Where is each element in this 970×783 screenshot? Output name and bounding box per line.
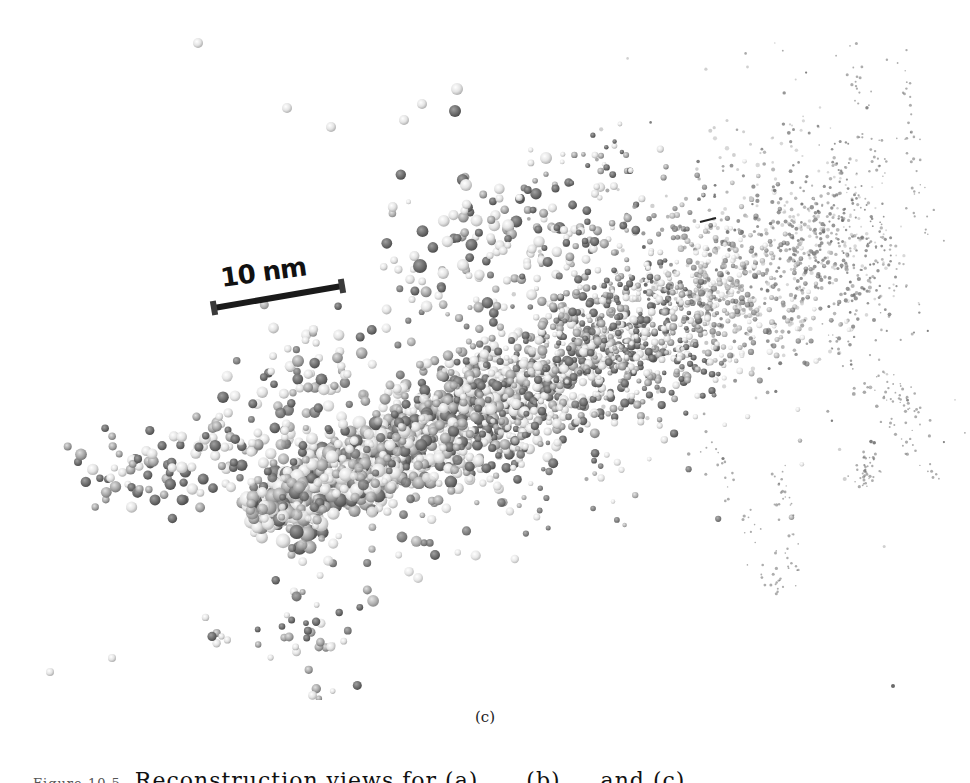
particle (727, 272, 730, 275)
particle (505, 425, 511, 431)
particle (832, 224, 836, 228)
particle (782, 471, 784, 473)
particle (914, 449, 917, 452)
particle (756, 183, 759, 186)
particle (808, 265, 810, 267)
particle (707, 363, 710, 366)
particle (684, 197, 688, 201)
particle (435, 292, 443, 300)
particle (523, 411, 529, 417)
particle (850, 360, 852, 362)
particle (789, 497, 791, 499)
particle (871, 138, 873, 140)
particle (719, 317, 723, 321)
particle (585, 269, 591, 275)
particle (773, 239, 776, 242)
particle (849, 214, 851, 216)
particle (526, 289, 537, 300)
particle (745, 271, 748, 274)
particle (833, 176, 836, 179)
particle (548, 203, 557, 212)
particle (721, 462, 723, 464)
particle (601, 283, 607, 289)
particle (756, 204, 759, 207)
particle (143, 471, 152, 480)
particle (574, 275, 582, 283)
particle (909, 408, 911, 410)
particle (703, 245, 709, 251)
particle (847, 328, 851, 332)
particle (230, 434, 240, 444)
particle (654, 345, 658, 349)
particle (563, 239, 570, 246)
particle (451, 83, 463, 95)
particle (573, 329, 581, 337)
particle (560, 152, 565, 157)
particle (888, 287, 890, 289)
particle (846, 179, 848, 181)
particle (768, 367, 771, 370)
particle (751, 203, 753, 205)
particle (875, 169, 878, 172)
particle (560, 160, 565, 165)
particle (798, 438, 802, 442)
particle (770, 200, 774, 204)
particle (725, 318, 730, 323)
particle (739, 204, 744, 209)
particle (730, 247, 733, 250)
particle (742, 308, 746, 312)
particle (499, 410, 506, 417)
particle (864, 255, 867, 258)
particle (787, 534, 790, 537)
particle (736, 168, 739, 171)
particle (789, 169, 793, 173)
particle (748, 233, 753, 238)
particle (305, 515, 311, 521)
particle (682, 337, 687, 342)
particle (591, 449, 600, 458)
particle (497, 324, 504, 331)
particle (539, 209, 548, 218)
particle (625, 266, 631, 272)
particle (774, 297, 778, 301)
particle (774, 476, 776, 478)
particle (534, 225, 542, 233)
particle (207, 632, 216, 641)
particle (641, 328, 649, 336)
particle (886, 381, 888, 383)
particle (303, 383, 313, 393)
particle (296, 384, 305, 393)
particle (746, 215, 749, 218)
particle (614, 517, 620, 523)
particle (388, 202, 398, 212)
particle (279, 389, 289, 399)
particle (909, 82, 911, 84)
particle (523, 262, 531, 270)
particle (868, 237, 870, 239)
particle (386, 468, 393, 475)
particle (500, 304, 507, 311)
particle (576, 229, 582, 235)
particle (857, 102, 859, 104)
particle (410, 287, 419, 296)
particle (711, 441, 713, 443)
particle (736, 219, 740, 223)
particle (530, 188, 541, 199)
particle (642, 386, 647, 391)
particle (756, 225, 759, 228)
particle (793, 348, 797, 352)
particle (472, 455, 484, 467)
particle (860, 236, 863, 239)
particle (729, 289, 734, 294)
particle (767, 307, 772, 312)
particle (927, 470, 929, 472)
particle (774, 177, 777, 180)
particle (334, 440, 343, 449)
particle (605, 411, 611, 417)
particle (543, 495, 549, 501)
particle (624, 339, 629, 344)
particle (913, 212, 915, 214)
particle (486, 233, 495, 242)
particle (797, 569, 799, 571)
particle (687, 311, 692, 316)
